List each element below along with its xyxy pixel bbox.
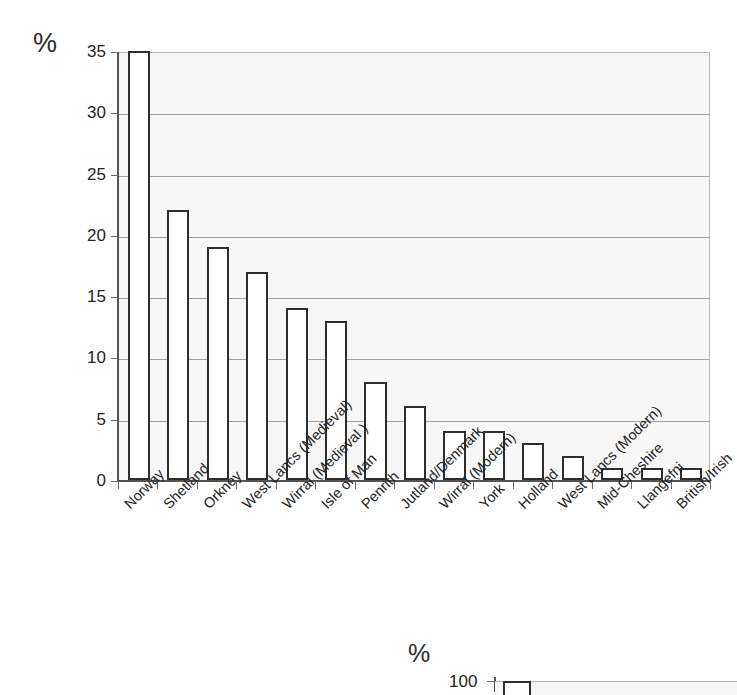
gridline: [119, 237, 709, 238]
bar: [246, 272, 268, 480]
y-axis-tick-label: 0: [97, 471, 106, 491]
y-axis-tick-label: 20: [87, 226, 106, 246]
y-axis-tick-mark: [111, 236, 118, 237]
x-axis-tick-mark: [513, 481, 514, 489]
x-axis-label: York: [477, 481, 507, 511]
bar: [207, 247, 229, 480]
bar: [167, 210, 189, 480]
y-axis-unit-label: %: [33, 28, 57, 59]
y-axis-tick-label: 35: [87, 42, 106, 62]
bar: [404, 406, 426, 480]
secondary-y-axis-tick-label-100: 100: [449, 672, 477, 692]
y-axis-tick-label: 5: [97, 410, 106, 430]
y-axis-tick-mark: [111, 358, 118, 359]
secondary-y-axis-unit-label: %: [408, 639, 430, 668]
bar: [128, 51, 150, 480]
y-axis-tick-label: 15: [87, 287, 106, 307]
x-axis-tick-mark: [118, 481, 119, 489]
secondary-bar: [503, 681, 531, 695]
secondary-y-axis-tick-mark: [487, 681, 494, 682]
y-axis-tick-mark: [111, 175, 118, 176]
y-axis-tick-mark: [111, 420, 118, 421]
y-axis-tick-mark: [111, 113, 118, 114]
y-axis-tick-mark: [111, 52, 118, 53]
gridline: [119, 114, 709, 115]
y-axis-line: [117, 52, 119, 482]
bar-chart-figure: % 05101520253035 NorwayShetlandOrkneyWes…: [0, 0, 737, 640]
secondary-plot-area: [495, 681, 737, 695]
y-axis-tick-label: 30: [87, 103, 106, 123]
y-axis-tick-mark: [111, 481, 118, 482]
plot-area: [118, 52, 710, 481]
y-axis-tick-mark: [111, 297, 118, 298]
gridline: [119, 176, 709, 177]
y-axis-tick-label: 10: [87, 348, 106, 368]
y-axis-tick-label: 25: [87, 165, 106, 185]
